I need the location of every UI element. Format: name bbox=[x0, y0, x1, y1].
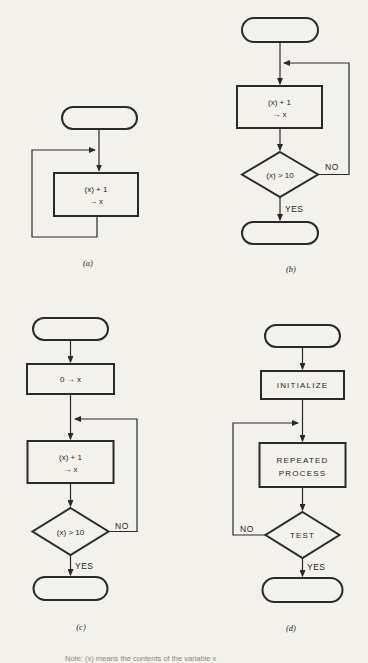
process-box-b bbox=[237, 86, 322, 128]
init-text-c: 0 → x bbox=[60, 375, 81, 384]
flowchart-canvas: (x) + 1 → x (a) (x) + 1 → x (x) > 10 NO … bbox=[0, 0, 368, 663]
figure-caption: Note: (x) means the contents of the vari… bbox=[65, 654, 217, 663]
subfigure-label-c: (c) bbox=[76, 622, 86, 632]
no-branch-label-d: NO bbox=[240, 524, 254, 534]
process-text-line1-d: REPEATED bbox=[276, 456, 328, 465]
init-text-d: INITIALIZE bbox=[277, 381, 329, 390]
process-text-line2-b: → x bbox=[272, 110, 286, 119]
loop-connector-b bbox=[284, 63, 349, 175]
subfigure-label-d: (d) bbox=[286, 623, 296, 633]
flowchart-b: (x) + 1 → x (x) > 10 NO YES (b) bbox=[237, 18, 349, 274]
yes-branch-label-c: YES bbox=[75, 561, 94, 571]
process-text-line1-c: (x) + 1 bbox=[59, 453, 82, 462]
subfigure-label-a: (a) bbox=[83, 258, 93, 268]
terminal-start-a bbox=[62, 107, 137, 129]
decision-text-c: (x) > 10 bbox=[57, 528, 85, 537]
terminal-start-b bbox=[242, 18, 318, 42]
no-branch-label-b: NO bbox=[325, 162, 339, 172]
flowchart-d: INITIALIZE REPEATED PROCESS TEST NO YES … bbox=[233, 325, 346, 633]
process-box-c bbox=[28, 441, 114, 483]
terminal-end-d bbox=[263, 578, 343, 602]
terminal-start-c bbox=[33, 318, 108, 340]
process-text-line1-b: (x) + 1 bbox=[268, 98, 291, 107]
process-text-line2-c: → x bbox=[63, 465, 77, 474]
terminal-end-b bbox=[242, 222, 318, 244]
loop-connector-c bbox=[75, 419, 137, 532]
subfigure-label-b: (b) bbox=[286, 264, 296, 274]
yes-branch-label-d: YES bbox=[307, 562, 326, 572]
terminal-end-c bbox=[34, 577, 108, 600]
flowchart-c: 0 → x (x) + 1 → x (x) > 10 NO YES (c) bbox=[27, 318, 137, 632]
yes-branch-label-b: YES bbox=[285, 204, 304, 214]
process-text-line2-a: → x bbox=[89, 197, 103, 206]
process-box-a bbox=[54, 173, 138, 216]
process-text-line1-a: (x) + 1 bbox=[85, 185, 108, 194]
process-box-d bbox=[260, 443, 346, 487]
process-text-line2-d: PROCESS bbox=[279, 469, 327, 478]
decision-text-d: TEST bbox=[290, 531, 315, 540]
flowchart-figure: (x) + 1 → x (a) (x) + 1 → x (x) > 10 NO … bbox=[0, 0, 368, 663]
loop-connector-d bbox=[233, 423, 298, 535]
no-branch-label-c: NO bbox=[115, 521, 129, 531]
terminal-start-d bbox=[265, 325, 340, 347]
flowchart-a: (x) + 1 → x (a) bbox=[32, 107, 138, 268]
decision-text-b: (x) > 10 bbox=[266, 171, 294, 180]
